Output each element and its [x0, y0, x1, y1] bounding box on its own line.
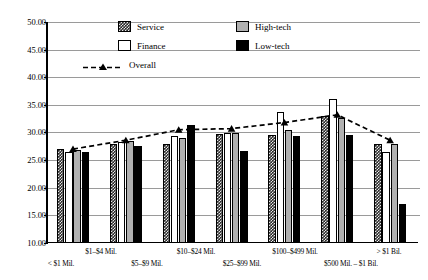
- bar-finance: [171, 136, 178, 243]
- legend-swatch-lowtech-icon: [236, 40, 249, 51]
- bar-service: [216, 134, 223, 243]
- bar-finance: [329, 99, 336, 243]
- x-label-1-4mil: $1–$4 Mil.: [56, 248, 146, 256]
- legend-item-hightech: High-tech: [236, 21, 291, 32]
- legend-label-lowtech: Low-tech: [255, 41, 289, 51]
- bar-service: [163, 144, 170, 243]
- chart-legend: Service High-tech Finance Low-tech Overa…: [118, 21, 354, 81]
- legend-label-finance: Finance: [137, 41, 166, 51]
- bar-finance: [224, 133, 231, 244]
- bar-service: [374, 144, 381, 243]
- bar-group: [374, 22, 406, 243]
- bar-finance: [118, 142, 125, 243]
- y-tick-label-15: 15.00: [4, 211, 46, 220]
- legend-dashed-line-triangle-icon: [83, 59, 123, 70]
- y-tick-label-45: 45.00: [4, 46, 46, 55]
- bar-lowtech: [82, 152, 89, 243]
- x-label-25-99mil: $25–$99 Mil.: [192, 260, 292, 268]
- y-tick-label-35: 35.00: [4, 101, 46, 110]
- bar-service: [321, 116, 328, 243]
- bar-hightech: [126, 141, 133, 243]
- legend-swatch-service-icon: [118, 21, 131, 32]
- bar-lowtech: [346, 135, 353, 243]
- x-axis-labels: < $1 Mil. $1–$4 Mil. $5–$9 Mil. $10–$24 …: [0, 243, 428, 280]
- bar-service: [110, 144, 117, 243]
- x-label-5-9mil: $5–$9 Mil.: [102, 260, 192, 268]
- legend-item-finance: Finance: [118, 40, 166, 51]
- y-axis: 50.00 45.00 40.00 35.00 30.00 25.00 20.0…: [0, 0, 46, 280]
- legend-label-overall: Overall: [129, 60, 156, 70]
- legend-item-overall: Overall: [83, 59, 156, 70]
- y-tick-label-40: 40.00: [4, 73, 46, 82]
- y-tick-label-30: 30.00: [4, 128, 46, 137]
- x-label-10-24mil: $10–$24 Mil.: [146, 248, 246, 256]
- bar-service: [57, 149, 64, 243]
- bar-lowtech: [293, 136, 300, 243]
- bar-finance: [382, 152, 389, 243]
- y-tick-label-20: 20.00: [4, 184, 46, 193]
- bar-group: [57, 22, 89, 243]
- bar-hightech: [232, 133, 239, 243]
- bar-hightech: [73, 150, 80, 243]
- bar-lowtech: [399, 204, 406, 243]
- bar-service: [268, 135, 275, 243]
- bar-hightech: [179, 138, 186, 243]
- bar-hightech: [285, 130, 292, 243]
- legend-label-service: Service: [137, 22, 164, 32]
- legend-swatch-finance-icon: [118, 40, 131, 51]
- y-tick-label-25: 25.00: [4, 156, 46, 165]
- legend-item-lowtech: Low-tech: [236, 40, 289, 51]
- legend-label-hightech: High-tech: [255, 22, 291, 32]
- legend-item-service: Service: [118, 21, 164, 32]
- legend-swatch-hightech-icon: [236, 21, 249, 32]
- x-label-500mil-1bil: $500 Mil. – $1 Bil.: [286, 260, 416, 268]
- bar-finance: [65, 152, 72, 243]
- bar-hightech: [391, 144, 398, 243]
- bar-lowtech: [187, 125, 194, 243]
- x-label-lt-1mil: < $1 Mil.: [16, 260, 106, 268]
- bar-lowtech: [134, 146, 141, 243]
- chart-container: 50.00 45.00 40.00 35.00 30.00 25.00 20.0…: [0, 0, 428, 280]
- bar-finance: [277, 112, 284, 243]
- x-label-gt-1bil: > $1 Bil.: [344, 248, 428, 256]
- y-tick-label-50: 50.00: [4, 18, 46, 27]
- bar-lowtech: [240, 151, 247, 243]
- x-label-100-499mil: $100–$499 Mil.: [240, 248, 350, 256]
- bar-hightech: [338, 118, 345, 243]
